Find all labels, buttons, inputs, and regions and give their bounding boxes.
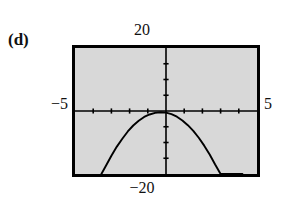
figure-panel-d: (d) 20 −5 5 −20 <box>0 0 284 206</box>
calculator-screen <box>72 45 260 177</box>
axis-label-ymax: 20 <box>0 22 284 38</box>
plot-area <box>75 48 257 174</box>
axis-label-ymin: −20 <box>0 180 284 196</box>
axis-label-xmin: −5 <box>36 96 68 112</box>
axis-label-xmax: 5 <box>264 96 284 112</box>
parabola-curve <box>101 112 242 174</box>
